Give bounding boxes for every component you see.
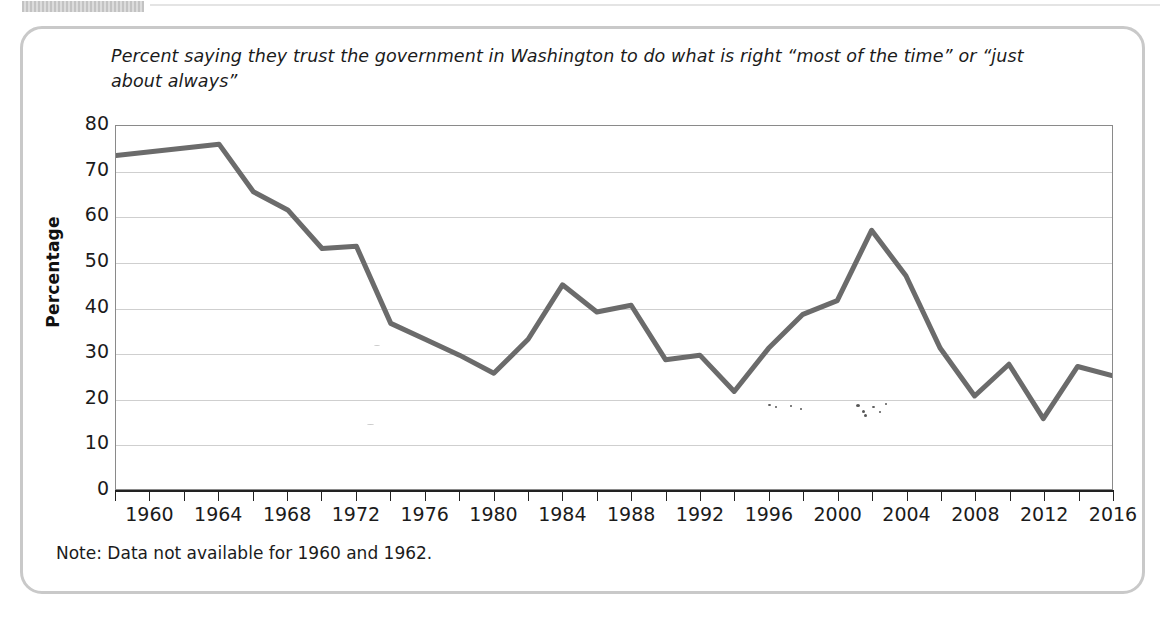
x-axis-tick — [907, 490, 908, 501]
x-axis-tick — [631, 490, 632, 501]
x-axis-tick — [253, 490, 254, 501]
scan-artifact — [367, 424, 374, 425]
scan-artifact — [775, 406, 777, 408]
x-axis-tick — [287, 490, 288, 501]
x-axis-tick — [872, 490, 873, 501]
y-axis-tick-label: 30 — [63, 340, 109, 362]
x-axis-tick — [975, 490, 976, 501]
x-axis-tick — [803, 490, 804, 501]
x-axis-tick — [1113, 490, 1114, 501]
x-axis-tick — [1079, 490, 1080, 501]
x-axis-tick — [528, 490, 529, 501]
x-axis-tick — [597, 490, 598, 501]
scan-artifact — [885, 403, 887, 405]
y-axis-tick-label: 50 — [63, 249, 109, 271]
y-axis-tick-label: 70 — [63, 158, 109, 180]
y-axis-tick-label: 60 — [63, 203, 109, 225]
x-axis-tick — [184, 490, 185, 501]
y-axis-tick-label: 0 — [63, 477, 109, 499]
x-axis-tick — [666, 490, 667, 501]
x-axis-tick — [734, 490, 735, 501]
y-axis-tick-labels: 80706050403020100 — [57, 125, 109, 490]
scanned-header-rule — [150, 4, 1160, 6]
scan-artifact — [864, 414, 867, 417]
x-axis-tick — [1010, 490, 1011, 501]
y-axis-tick-label: 80 — [63, 112, 109, 134]
x-axis-tick-labels: 1960196419681972197619801984198819921996… — [115, 503, 1113, 529]
x-axis-tick — [115, 490, 116, 501]
scan-artifact — [768, 404, 771, 406]
scan-artifact — [790, 405, 792, 407]
scan-artifact — [374, 345, 380, 346]
x-axis-tick — [459, 490, 460, 501]
y-axis-tick-label: 40 — [63, 295, 109, 317]
plot-area — [115, 125, 1113, 490]
scan-artifact — [862, 410, 865, 413]
x-axis-tick — [425, 490, 426, 501]
x-axis-tick — [562, 490, 563, 501]
chart-title: Percent saying they trust the government… — [111, 44, 1061, 94]
trust-line — [116, 144, 1112, 419]
x-axis-tick — [769, 490, 770, 501]
trust-line-series — [116, 126, 1112, 489]
x-axis-tick — [838, 490, 839, 501]
scanned-header-remnant — [22, 1, 144, 12]
x-axis-tick — [356, 490, 357, 501]
y-axis-tick-label: 10 — [63, 431, 109, 453]
x-axis-tick — [1044, 490, 1045, 501]
x-axis-tick — [218, 490, 219, 501]
scan-artifact — [856, 404, 860, 407]
y-axis-tick-label: 20 — [63, 386, 109, 408]
x-axis-tick — [390, 490, 391, 501]
scan-artifact — [800, 408, 802, 410]
x-axis-tick — [321, 490, 322, 501]
x-axis-tick — [494, 490, 495, 501]
scan-artifact — [872, 406, 875, 408]
x-axis-ticks — [115, 490, 1113, 501]
x-axis-tick — [700, 490, 701, 501]
chart-note: Note: Data not available for 1960 and 19… — [56, 543, 432, 563]
x-axis-tick-label: 2016 — [1068, 503, 1158, 525]
scan-artifact — [879, 411, 881, 413]
x-axis-tick — [149, 490, 150, 501]
x-axis-tick — [941, 490, 942, 501]
